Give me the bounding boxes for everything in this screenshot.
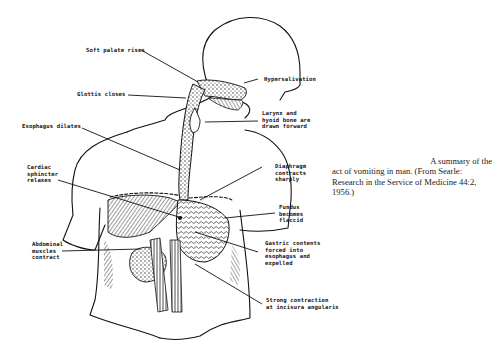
label-cardiac: Cardiac sphincter relaxes xyxy=(27,164,58,184)
tongue xyxy=(208,98,243,110)
leader-esophagus xyxy=(82,128,180,170)
leader-soft-palate xyxy=(141,50,198,82)
left-oblique xyxy=(104,240,113,290)
leader-hypersalivation xyxy=(244,79,258,83)
label-diaphragm: Diaphragm contracts sharply xyxy=(275,163,306,183)
leader-diaphragm xyxy=(200,167,262,200)
leader-incisura xyxy=(195,264,262,304)
caption-line-1: A summary of the xyxy=(332,156,492,166)
right-oblique xyxy=(230,245,240,285)
leader-glottis xyxy=(128,95,186,98)
label-esophagus: Esophagus dilates xyxy=(22,123,81,130)
liver xyxy=(108,195,180,237)
label-abdominal: Abdominal muscles contract xyxy=(32,241,63,261)
label-incisura: Strong contraction at incisura angularis xyxy=(266,297,339,310)
label-fundus: Fundus becomes flaccid xyxy=(279,204,303,224)
label-soft-palate: Soft palate rises xyxy=(86,47,145,54)
leader-abdominal xyxy=(62,249,140,251)
esophagus xyxy=(179,84,205,200)
label-hypersalivation: Hypersalivation xyxy=(264,76,316,83)
label-gastric: Gastric contents forced into esophagus a… xyxy=(265,240,320,266)
abdominal-muscles xyxy=(150,238,182,312)
figure-caption: A summary of the act of vomiting in man.… xyxy=(332,156,492,198)
label-glottis: Glottis closes xyxy=(77,91,126,98)
caption-rest: act of vomiting in man. (From Searle: Re… xyxy=(332,166,476,197)
stomach xyxy=(176,200,229,262)
leader-fundus xyxy=(225,213,275,218)
label-larynx: Larynx and hyoid bone are drawn forward xyxy=(262,110,311,130)
leader-larynx xyxy=(205,121,258,122)
